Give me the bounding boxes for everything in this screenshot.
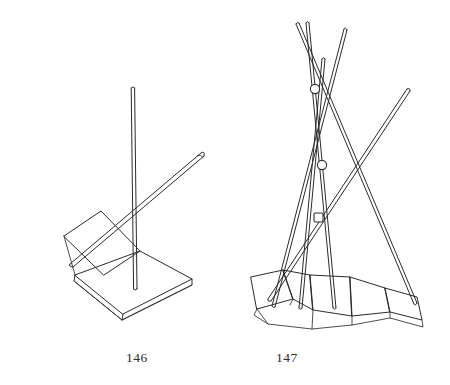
collar-ring-upper bbox=[310, 84, 319, 93]
technical-drawing-plate bbox=[0, 0, 450, 385]
vertical-rod bbox=[131, 87, 137, 291]
collar-ring-lower bbox=[314, 213, 323, 222]
figure-caption-147: 147 bbox=[276, 350, 298, 366]
base-segment-4 bbox=[350, 277, 390, 316]
figure-caption-146: 146 bbox=[126, 350, 148, 366]
figure-147 bbox=[251, 22, 423, 330]
base-segment-3 bbox=[310, 275, 352, 316]
rod-d bbox=[268, 88, 410, 301]
rod-a bbox=[296, 22, 417, 305]
rod-c bbox=[272, 28, 347, 308]
base-segment-1 bbox=[251, 270, 293, 309]
figure-146 bbox=[64, 87, 204, 320]
collar-ring-middle bbox=[317, 160, 326, 169]
